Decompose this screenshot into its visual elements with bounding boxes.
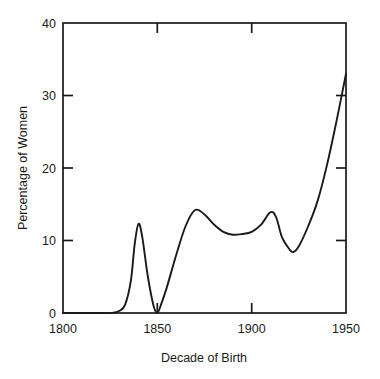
x-tick-label-1950: 1950 (332, 322, 360, 336)
y-tick-label-40: 40 (42, 17, 56, 31)
x-tick-label-1850: 1850 (143, 322, 171, 336)
x-tick-label-1800: 1800 (49, 322, 77, 336)
x-tick-label-1900: 1900 (238, 322, 266, 336)
chart-figure: 40 30 20 10 0 1800 1850 1900 1950 Percen… (0, 0, 380, 379)
y-tick-label-30: 30 (42, 89, 56, 103)
y-tick-label-20: 20 (42, 162, 56, 176)
x-axis-title: Decade of Birth (161, 351, 247, 365)
line-chart: 40 30 20 10 0 1800 1850 1900 1950 Percen… (0, 0, 380, 379)
y-tick-label-10: 10 (42, 234, 56, 248)
y-axis-title: Percentage of Women (16, 106, 30, 230)
y-tick-label-0: 0 (49, 307, 56, 321)
